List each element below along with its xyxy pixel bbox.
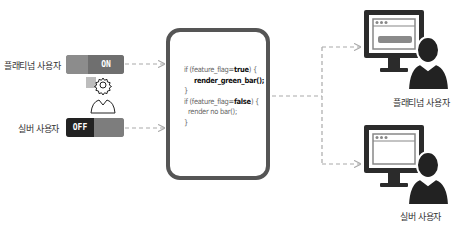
silver-monitor-user-icon bbox=[362, 123, 462, 213]
platinum-output-caption: 플래티넘 사용자 bbox=[393, 96, 449, 109]
code-line-5: render no bar(); bbox=[184, 107, 264, 118]
toggle-knob bbox=[66, 55, 88, 74]
code-line-2: render_green_bar(); bbox=[184, 76, 264, 87]
feature-flag-code-box: if (feature_flag=true) { render_green_ba… bbox=[166, 28, 270, 180]
platinum-user-label: 플래티넘 사용자 bbox=[4, 59, 60, 72]
toggle-knob bbox=[94, 118, 124, 137]
code-line-3: } bbox=[184, 86, 264, 97]
toggle-state-label: OFF bbox=[66, 118, 94, 137]
silver-user-label: 실버 사용자 bbox=[18, 122, 59, 135]
platinum-monitor-user-icon bbox=[362, 8, 462, 98]
code-block: if (feature_flag=true) { render_green_ba… bbox=[184, 65, 264, 128]
platinum-toggle[interactable]: ON bbox=[66, 55, 124, 74]
silver-output-caption: 실버 사용자 bbox=[400, 210, 441, 223]
gear-person-icon bbox=[86, 76, 120, 114]
code-line-6: } bbox=[184, 118, 264, 129]
green-bar bbox=[378, 36, 412, 43]
toggle-state-label: ON bbox=[88, 55, 124, 74]
silver-toggle[interactable]: OFF bbox=[66, 118, 124, 137]
code-line-4: if (feature_flag=false) { bbox=[184, 97, 264, 108]
code-line-1: if (feature_flag=true) { bbox=[184, 65, 264, 76]
